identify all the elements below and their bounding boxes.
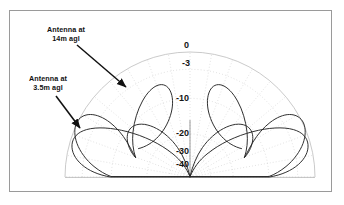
series-lobe-14m-right-upper (207, 85, 247, 158)
axis-tick-label-minus3: -3 (182, 58, 190, 68)
series-lobe-14m-left-upper (133, 85, 173, 158)
axis-tick-label-minus10: -10 (176, 93, 189, 103)
callout-arrow-3p5m (56, 96, 80, 128)
callout-label-14m: Antenna at 14m agl (30, 26, 102, 43)
callout-arrow-14m (77, 45, 126, 87)
axis-tick-label-minus30: -30 (176, 146, 189, 156)
callout-label-3p5m: Antenna at 3.5m agl (12, 75, 84, 92)
axis-tick-label-minus40: -40 (176, 159, 189, 169)
axis-tick-label-minus20: -20 (176, 128, 189, 138)
axis-tick-label-0: 0 (184, 40, 189, 50)
antenna-pattern-figure: Antenna at 14m agl Antenna at 3.5m agl 0… (0, 0, 344, 205)
